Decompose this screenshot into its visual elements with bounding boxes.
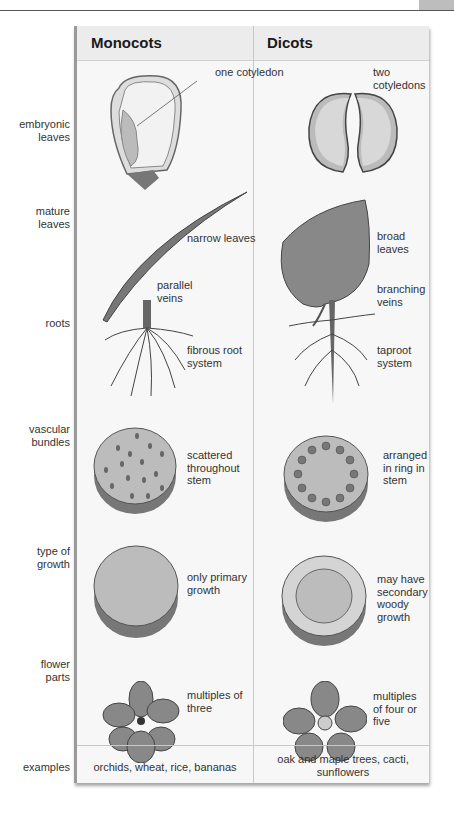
row-label-mature-leaves: matureleaves (0, 205, 70, 231)
note-scattered-throughout-stem: scattered throughout stem (187, 449, 247, 487)
note-multiples-of-four-or-five: multiples of four or five (373, 690, 425, 728)
dicot-stem-cross-section (282, 430, 372, 526)
fibrous-root-illustration (99, 300, 199, 400)
row-label-type-of-growth: type ofgrowth (0, 545, 70, 571)
examples-row-divider (77, 745, 429, 746)
note-arranged-in-ring: arranged in ring in stem (383, 449, 427, 487)
note-two-cotyledons: two cotyledons (373, 66, 429, 91)
row-label-vascular-bundles: vascularbundles (0, 423, 70, 449)
monocot-primary-growth-stem (92, 542, 182, 642)
page-number-tab (419, 0, 454, 10)
column-header-monocots: Monocots (91, 34, 162, 51)
note-one-cotyledon: one cotyledon (215, 66, 284, 79)
note-broad-leaves: broad leaves (377, 230, 425, 255)
monocot-seed-illustration (97, 70, 197, 190)
row-label-embryonic-leaves: embryonicleaves (0, 118, 70, 144)
monocot-flower-illustration (101, 681, 181, 763)
row-label-examples: examples (0, 761, 70, 774)
taproot-illustration (287, 300, 377, 410)
note-secondary-woody-growth: may have secondary woody growth (377, 573, 427, 623)
note-narrow-leaves: narrow leaves (187, 232, 255, 245)
examples-monocots: orchids, wheat, rice, bananas (77, 761, 253, 774)
note-branching-veins: branching veins (377, 283, 425, 308)
dicot-seed-illustration (303, 88, 403, 178)
page-header-rule (0, 0, 454, 11)
note-taproot-system: taproot system (377, 344, 425, 369)
dicot-woody-growth-stem (280, 552, 370, 652)
note-only-primary-growth: only primary growth (187, 571, 249, 596)
column-header-dicots: Dicots (267, 34, 313, 51)
comparison-table: Monocots Dicots one cotyledon two cotyle… (74, 26, 429, 783)
note-multiples-of-three: multiples of three (187, 689, 247, 714)
examples-dicots: oak and maple trees, cacti, sunflowers (273, 753, 413, 779)
row-label-roots: roots (0, 317, 70, 330)
row-label-flower-parts: flowerparts (0, 658, 70, 684)
column-divider (253, 26, 254, 783)
note-fibrous-root-system: fibrous root system (187, 344, 247, 369)
monocot-stem-cross-section (92, 422, 178, 518)
